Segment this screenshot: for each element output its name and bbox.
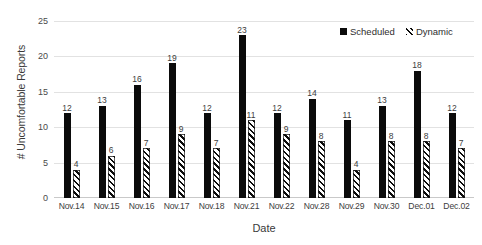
bar-slot: 8 [422, 21, 431, 198]
bar-value-label: 7 [214, 139, 219, 148]
bar-slot: 8 [317, 21, 326, 198]
bar-dynamic[interactable]: 11 [248, 120, 255, 198]
bar-slot: 12 [203, 21, 212, 198]
bar-dynamic[interactable]: 8 [318, 141, 325, 198]
bar-value-label: 19 [167, 54, 176, 63]
bar-value-label: 14 [307, 89, 316, 98]
bar-value-label: 7 [459, 139, 464, 148]
bar-slot: 11 [247, 21, 256, 198]
bar-dynamic[interactable]: 4 [353, 170, 360, 198]
legend-item-dynamic[interactable]: Dynamic [406, 26, 453, 37]
x-axis-tick-label: Nov.28 [299, 201, 334, 211]
legend-item-label: Dynamic [416, 26, 453, 37]
bar-dynamic[interactable]: 7 [213, 148, 220, 198]
bar-value-label: 12 [202, 104, 211, 113]
bar-group: 129 [264, 21, 299, 198]
bar-value-label: 11 [343, 111, 352, 120]
legend-item-label: Scheduled [350, 26, 395, 37]
bar-group: 136 [89, 21, 124, 198]
bar-value-label: 13 [377, 96, 386, 105]
bar-slot: 4 [352, 21, 361, 198]
x-axis-title: Date [54, 222, 474, 234]
x-axis-tick-label: Nov.17 [159, 201, 194, 211]
bar-value-label: 13 [97, 96, 106, 105]
bar-value-label: 8 [389, 132, 394, 141]
bar-group: 127 [439, 21, 474, 198]
bar-scheduled[interactable]: 12 [274, 113, 281, 198]
x-axis-tick-label: Dec.01 [404, 201, 439, 211]
bar-slot: 19 [168, 21, 177, 198]
bar-scheduled[interactable]: 23 [239, 35, 246, 198]
bar-scheduled[interactable]: 14 [309, 99, 316, 198]
bar-value-label: 9 [284, 125, 289, 134]
bar-scheduled[interactable]: 19 [169, 63, 176, 198]
bar-value-label: 12 [272, 104, 281, 113]
plot-area: 1241361671991272311129148114138188127 [54, 21, 474, 198]
bar-value-label: 8 [424, 132, 429, 141]
bar-value-label: 4 [354, 160, 359, 169]
bar-slot: 23 [238, 21, 247, 198]
bar-dynamic[interactable]: 7 [458, 148, 465, 198]
bar-value-label: 9 [179, 125, 184, 134]
bar-dynamic[interactable]: 9 [178, 134, 185, 198]
bar-group: 199 [159, 21, 194, 198]
bar-dynamic[interactable]: 8 [388, 141, 395, 198]
bar-value-label: 12 [447, 104, 456, 113]
bar-slot: 13 [378, 21, 387, 198]
bar-dynamic[interactable]: 4 [73, 170, 80, 198]
x-axis-tick-label: Nov.29 [334, 201, 369, 211]
bar-group: 127 [194, 21, 229, 198]
bar-slot: 12 [63, 21, 72, 198]
bar-slot: 13 [98, 21, 107, 198]
bar-scheduled[interactable]: 11 [344, 120, 351, 198]
y-axis-tick-5: 5 [22, 158, 48, 168]
bar-slot: 14 [308, 21, 317, 198]
bar-value-label: 11 [247, 111, 256, 120]
bar-slot: 7 [142, 21, 151, 198]
bar-slot: 7 [457, 21, 466, 198]
bar-value-label: 6 [109, 146, 114, 155]
bar-slot: 16 [133, 21, 142, 198]
bar-scheduled[interactable]: 13 [379, 106, 386, 198]
bar-slot: 4 [72, 21, 81, 198]
bar-group: 148 [299, 21, 334, 198]
bar-dynamic[interactable]: 9 [283, 134, 290, 198]
bar-group: 138 [369, 21, 404, 198]
bar-value-label: 8 [319, 132, 324, 141]
y-axis-tick-15: 15 [22, 87, 48, 97]
bar-slot: 7 [212, 21, 221, 198]
bar-scheduled[interactable]: 13 [99, 106, 106, 198]
bar-chart: # Uncomfortable Reports 0510152025 12413… [0, 0, 482, 245]
bar-scheduled[interactable]: 16 [134, 85, 141, 198]
bar-group: 167 [124, 21, 159, 198]
bar-slot: 9 [282, 21, 291, 198]
y-axis-tick-25: 25 [22, 16, 48, 26]
y-axis-tick-20: 20 [22, 51, 48, 61]
bar-slot: 18 [413, 21, 422, 198]
solid-square-icon [340, 28, 347, 35]
x-axis-tick-label: Nov.18 [194, 201, 229, 211]
x-axis-tick-label: Nov.16 [124, 201, 159, 211]
bar-dynamic[interactable]: 7 [143, 148, 150, 198]
x-axis-tick-labels: Nov.14Nov.15Nov.16Nov.17Nov.18Nov.21Nov.… [54, 201, 474, 211]
bar-value-label: 18 [412, 61, 421, 70]
bar-value-label: 4 [74, 160, 79, 169]
x-axis-tick-label: Nov.14 [54, 201, 89, 211]
y-axis-tick-10: 10 [22, 122, 48, 132]
bar-value-label: 7 [144, 139, 149, 148]
bar-group: 114 [334, 21, 369, 198]
bar-slot: 11 [343, 21, 352, 198]
y-axis-tick-0: 0 [22, 193, 48, 203]
bar-scheduled[interactable]: 12 [204, 113, 211, 198]
bar-scheduled[interactable]: 12 [64, 113, 71, 198]
bar-dynamic[interactable]: 6 [108, 156, 115, 198]
x-axis-tick-label: Nov.30 [369, 201, 404, 211]
bar-slot: 8 [387, 21, 396, 198]
hatched-square-icon [406, 28, 413, 35]
bar-dynamic[interactable]: 8 [423, 141, 430, 198]
bar-slot: 6 [107, 21, 116, 198]
chart-legend: ScheduledDynamic [340, 26, 453, 37]
bar-scheduled[interactable]: 18 [414, 71, 421, 198]
legend-item-scheduled[interactable]: Scheduled [340, 26, 395, 37]
bar-scheduled[interactable]: 12 [449, 113, 456, 198]
